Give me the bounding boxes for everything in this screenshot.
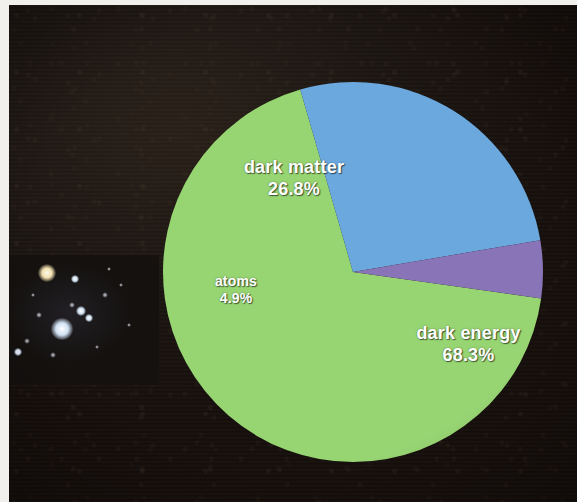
- pie-chart: dark matter 26.8% dark energy 68.3% atom…: [9, 5, 577, 502]
- cosmology-pie-photo: dark matter 26.8% dark energy 68.3% atom…: [9, 5, 577, 502]
- pie-slices: [163, 82, 543, 462]
- pie-chart-svg: [9, 5, 577, 502]
- screenshot-root: dark matter 26.8% dark energy 68.3% atom…: [0, 0, 577, 502]
